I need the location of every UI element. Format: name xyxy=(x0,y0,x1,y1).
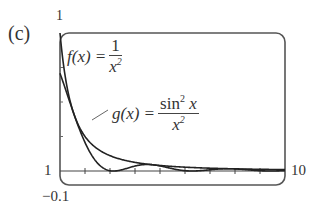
g-denominator: x2 xyxy=(172,114,185,134)
g-label-leader-line xyxy=(92,110,108,120)
f-fraction: 1 x2 xyxy=(109,37,122,76)
g-den-exp: 2 xyxy=(180,114,185,125)
f-den-exp: 2 xyxy=(117,56,122,67)
f-numerator: 1 xyxy=(109,37,122,56)
g-fraction: sin2 x x2 xyxy=(158,94,199,134)
g-numerator: sin2 x xyxy=(158,94,199,114)
g-num-base: sin xyxy=(160,94,180,113)
g-num-arg: x xyxy=(185,94,197,113)
f-denominator: x2 xyxy=(109,56,122,76)
g-lhs: g(x) = xyxy=(112,104,155,124)
f-annotation: f(x) = 1 x2 xyxy=(67,37,122,76)
g-den-base: x xyxy=(172,114,180,133)
f-den-base: x xyxy=(109,57,117,76)
g-annotation: g(x) = sin2 x x2 xyxy=(112,94,199,134)
f-lhs: f(x) = xyxy=(67,47,106,67)
